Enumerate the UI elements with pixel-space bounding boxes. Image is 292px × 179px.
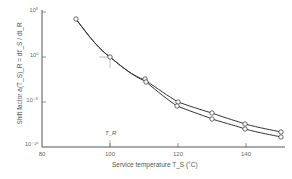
y-tick-1e5: 10⁵ <box>14 7 38 13</box>
x-tick-100: 100 <box>100 151 120 157</box>
y-axis-label: Shift factor a(T_S)_R = dt'_S / dt_R <box>16 19 23 129</box>
x-tick-120: 120 <box>168 151 188 157</box>
x-axis-label: Service temperature T_S (°C) <box>112 161 198 168</box>
x-tick-80: 80 <box>32 151 52 157</box>
y-tick-1e-10: 10⁻¹⁰ <box>14 141 38 147</box>
lower-curve <box>76 19 281 137</box>
data-markers <box>74 17 283 139</box>
tr-marker-label: T_R <box>105 130 116 136</box>
x-tick-140: 140 <box>236 151 256 157</box>
shift-factor-chart: 10⁵ 10⁰ 10⁻⁵ 10⁻¹⁰ 80 100 120 140 T_R Sh… <box>0 0 292 179</box>
upper-curve <box>76 19 281 132</box>
